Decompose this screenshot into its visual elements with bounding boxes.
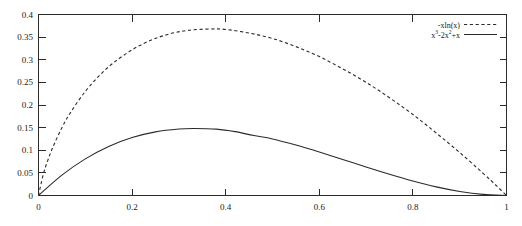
y-axis-ticks-right [500, 15, 507, 196]
x-axis-ticks [39, 189, 507, 196]
chart-figure: 0 0.05 0.1 0.15 0.2 0.25 0.3 0.35 0.4 0 … [0, 0, 522, 226]
x-tick-label: 0.4 [220, 202, 232, 212]
y-tick-label: 0.15 [17, 123, 33, 133]
y-axis-ticks [39, 15, 46, 196]
curve-cubic-polynomial [39, 128, 507, 195]
y-tick-label: 0.1 [22, 145, 33, 155]
legend-label-neg-x-ln-x: -xln(x) [438, 21, 461, 30]
x-tick-label: 1 [504, 202, 509, 212]
x-axis-ticks-top [39, 15, 507, 22]
curve-neg-x-ln-x [39, 29, 507, 196]
y-tick-label: 0.05 [17, 168, 33, 178]
y-axis-tick-labels: 0 0.05 0.1 0.15 0.2 0.25 0.3 0.35 0.4 [17, 10, 33, 201]
x-tick-label: 0 [36, 202, 41, 212]
y-tick-label: 0 [29, 191, 34, 201]
legend-label-cubic-polynomial: x3-2x2+x [431, 29, 460, 39]
x-tick-label: 0.2 [126, 202, 137, 212]
plot-frame [39, 15, 507, 196]
y-tick-label: 0.3 [22, 55, 34, 65]
y-tick-label: 0.4 [22, 10, 34, 20]
y-tick-label: 0.35 [17, 32, 33, 42]
function-plot: 0 0.05 0.1 0.15 0.2 0.25 0.3 0.35 0.4 0 … [0, 0, 522, 226]
chart-legend: -xln(x) x3-2x2+x [431, 21, 497, 40]
x-tick-label: 0.6 [314, 202, 326, 212]
y-tick-label: 0.2 [22, 100, 33, 110]
x-axis-tick-labels: 0 0.2 0.4 0.6 0.8 1 [36, 202, 509, 212]
x-tick-label: 0.8 [407, 202, 419, 212]
y-tick-label: 0.25 [17, 77, 33, 87]
